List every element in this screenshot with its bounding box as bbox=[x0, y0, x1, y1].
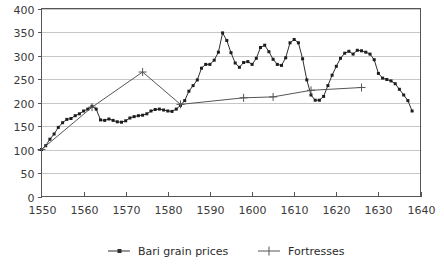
data-point-marker bbox=[128, 117, 131, 120]
data-point-marker bbox=[369, 53, 372, 56]
data-point-marker bbox=[133, 115, 136, 118]
legend-label-fortresses: Fortresses bbox=[288, 245, 345, 258]
data-point-marker bbox=[263, 44, 266, 47]
data-point-marker bbox=[240, 94, 248, 102]
data-point-marker bbox=[276, 63, 279, 66]
data-point-marker bbox=[213, 59, 216, 62]
y-axis-tick-labels: 050100150200250300350400 bbox=[14, 4, 35, 205]
data-point-marker bbox=[95, 108, 98, 111]
data-point-marker bbox=[107, 118, 110, 121]
data-point-marker bbox=[326, 84, 329, 87]
data-point-marker bbox=[171, 110, 174, 113]
series-plot-area bbox=[38, 31, 414, 153]
data-point-marker bbox=[293, 38, 296, 41]
data-point-marker bbox=[289, 41, 292, 44]
data-point-marker bbox=[385, 78, 388, 81]
data-point-marker bbox=[196, 78, 199, 81]
data-point-marker bbox=[255, 57, 258, 60]
data-point-marker bbox=[150, 110, 153, 113]
data-point-marker bbox=[158, 108, 161, 111]
data-point-marker bbox=[48, 138, 51, 141]
x-axis-ticks bbox=[85, 192, 422, 197]
y-tick-label-150: 150 bbox=[14, 121, 35, 134]
data-point-marker bbox=[360, 49, 363, 52]
data-point-marker bbox=[162, 109, 165, 112]
chart-container: 050100150200250300350400 155015601570158… bbox=[0, 0, 444, 265]
data-point-marker bbox=[352, 53, 355, 56]
data-point-marker bbox=[398, 88, 401, 91]
data-point-marker bbox=[373, 58, 376, 61]
data-point-marker bbox=[154, 108, 157, 111]
data-point-marker bbox=[61, 121, 64, 124]
chart-legend: Bari grain pricesFortresses bbox=[108, 245, 345, 258]
data-point-marker bbox=[377, 72, 380, 75]
data-point-marker bbox=[116, 120, 119, 123]
data-point-marker bbox=[272, 58, 275, 61]
y-tick-label-100: 100 bbox=[14, 145, 35, 158]
data-point-marker bbox=[120, 121, 123, 124]
data-point-marker bbox=[267, 50, 270, 53]
data-point-marker bbox=[242, 61, 245, 64]
data-point-marker bbox=[74, 114, 77, 117]
data-point-marker bbox=[112, 119, 115, 122]
data-point-marker bbox=[65, 118, 68, 121]
data-point-marker bbox=[331, 74, 334, 77]
y-tick-label-50: 50 bbox=[21, 168, 35, 181]
y-tick-label-300: 300 bbox=[14, 51, 35, 64]
x-tick-label-1590: 1590 bbox=[197, 204, 225, 217]
line-chart: 050100150200250300350400 155015601570158… bbox=[0, 0, 444, 265]
data-point-marker bbox=[284, 56, 287, 59]
data-point-marker bbox=[70, 117, 73, 120]
y-tick-label-250: 250 bbox=[14, 74, 35, 87]
x-tick-label-1560: 1560 bbox=[71, 204, 99, 217]
data-point-marker bbox=[137, 114, 140, 117]
data-point-marker bbox=[322, 95, 325, 98]
data-point-marker bbox=[183, 99, 186, 102]
data-point-marker bbox=[230, 51, 233, 54]
data-point-marker bbox=[57, 126, 60, 129]
data-point-marker bbox=[192, 84, 195, 87]
data-point-marker bbox=[204, 63, 207, 66]
x-axis-tick-labels: 1550156015701580159016001610162016301640 bbox=[29, 204, 436, 217]
x-tick-label-1630: 1630 bbox=[365, 204, 393, 217]
data-point-marker bbox=[356, 49, 359, 52]
data-point-marker bbox=[339, 57, 342, 60]
x-tick-label-1550: 1550 bbox=[29, 204, 57, 217]
y-tick-label-400: 400 bbox=[14, 4, 35, 17]
grid-lines bbox=[42, 10, 421, 174]
x-tick-label-1610: 1610 bbox=[281, 204, 309, 217]
data-point-marker bbox=[99, 118, 102, 121]
data-point-marker bbox=[217, 51, 220, 54]
data-point-marker bbox=[335, 65, 338, 68]
data-point-marker bbox=[305, 78, 308, 81]
data-point-marker bbox=[103, 119, 106, 122]
series-line-fortresses bbox=[42, 72, 362, 150]
y-axis-ticks bbox=[38, 10, 42, 198]
data-point-marker bbox=[124, 119, 127, 122]
data-point-marker bbox=[166, 110, 169, 113]
data-point-marker bbox=[246, 60, 249, 63]
data-point-marker bbox=[175, 108, 178, 111]
data-point-marker bbox=[200, 67, 203, 70]
data-point-marker bbox=[187, 90, 190, 93]
x-tick-label-1620: 1620 bbox=[323, 204, 351, 217]
data-point-marker bbox=[301, 57, 304, 60]
data-point-marker bbox=[208, 63, 211, 66]
data-point-marker bbox=[411, 110, 414, 113]
data-point-marker bbox=[402, 94, 405, 97]
data-point-marker bbox=[347, 50, 350, 53]
data-point-marker bbox=[343, 52, 346, 55]
data-point-marker bbox=[269, 93, 277, 101]
data-point-marker bbox=[314, 99, 317, 102]
data-point-marker bbox=[394, 82, 397, 85]
data-point-marker bbox=[364, 51, 367, 54]
data-point-marker bbox=[82, 110, 85, 113]
data-point-marker bbox=[53, 133, 56, 136]
data-point-marker bbox=[238, 66, 241, 69]
data-point-marker bbox=[259, 46, 262, 49]
x-tick-label-1600: 1600 bbox=[239, 204, 267, 217]
data-point-marker bbox=[297, 41, 300, 44]
data-point-marker bbox=[141, 114, 144, 117]
data-point-marker bbox=[78, 112, 81, 115]
data-point-marker bbox=[390, 79, 393, 82]
